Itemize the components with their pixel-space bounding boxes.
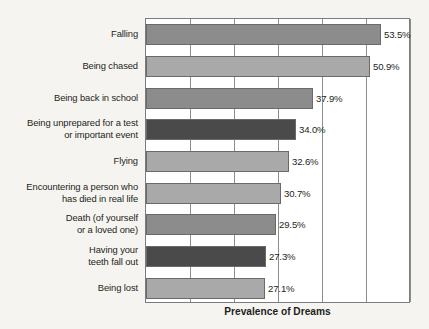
x-axis-title: Prevalence of Dreams	[145, 306, 410, 317]
category-axis: FallingBeing chasedBeing back in schoolB…	[0, 18, 142, 303]
bar	[146, 24, 381, 45]
category-label: Encountering a person who has died in re…	[26, 181, 138, 203]
bar-value-label: 37.9%	[316, 88, 342, 109]
gridline-60	[410, 19, 411, 302]
bar	[146, 183, 281, 204]
category-label: Being unprepared for a test or important…	[27, 117, 138, 139]
bar-value-label: 27.3%	[269, 246, 295, 267]
category-label: Death (of yourself or a loved one)	[66, 212, 138, 234]
category-label: Having your teeth fall out	[88, 244, 138, 266]
bar-value-label: 34.0%	[299, 119, 325, 140]
plot-area: 53.5%50.9%37.9%34.0%32.6%30.7%29.5%27.3%…	[145, 18, 410, 303]
bar	[146, 88, 313, 109]
category-label: Being back in school	[54, 92, 138, 103]
bar-value-label: 53.5%	[384, 24, 410, 45]
bar-value-label: 50.9%	[373, 56, 399, 77]
bar-value-label: 27.1%	[268, 278, 294, 299]
bar-chart: FallingBeing chasedBeing back in schoolB…	[0, 0, 429, 329]
category-label: Falling	[111, 28, 138, 39]
bar-value-label: 32.6%	[292, 151, 318, 172]
bar-value-label: 30.7%	[284, 183, 310, 204]
bar	[146, 151, 289, 172]
category-label: Flying	[114, 155, 138, 166]
bar	[146, 56, 370, 77]
bar	[146, 214, 276, 235]
bar	[146, 246, 266, 267]
bar	[146, 278, 265, 299]
category-label: Being chased	[82, 60, 138, 71]
category-label: Being lost	[98, 282, 138, 293]
bar-value-label: 29.5%	[279, 214, 305, 235]
bar	[146, 119, 296, 140]
